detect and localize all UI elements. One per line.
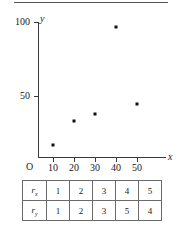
x-tick-label-40: 40: [105, 163, 127, 173]
data-point: [73, 120, 76, 123]
table-cell: 1: [47, 201, 70, 221]
y-axis-line: [38, 22, 39, 158]
x-tick-label-10: 10: [42, 163, 64, 173]
data-point: [52, 144, 55, 147]
data-point: [115, 26, 118, 29]
table-cell: 1: [47, 181, 70, 201]
table-cell: 2: [70, 201, 93, 221]
y-tick-label-100: 100: [2, 17, 30, 27]
table-cell: 3: [92, 181, 115, 201]
data-point: [94, 113, 97, 116]
table-row: rx 1 2 3 4 5: [23, 181, 162, 201]
x-axis-label: x: [168, 152, 172, 162]
table-cell: 5: [138, 181, 161, 201]
y-axis-label: y: [40, 14, 44, 24]
row-header-rank-x: rx: [23, 181, 47, 201]
y-tick-mark-50: [34, 96, 38, 97]
row-header-rank-y: ry: [23, 201, 47, 221]
table-cell: 4: [138, 201, 161, 221]
origin-label: O: [26, 162, 33, 172]
y-tick-mark-100: [34, 22, 38, 23]
x-tick-label-50: 50: [126, 163, 148, 173]
x-tick-label-30: 30: [84, 163, 106, 173]
table-cell: 3: [92, 201, 115, 221]
table-cell: 2: [70, 181, 93, 201]
y-tick-label-50: 50: [2, 91, 30, 101]
table-cell: 5: [115, 201, 138, 221]
row-header-subscript: y: [35, 210, 38, 216]
data-point: [136, 103, 139, 106]
row-header-subscript: x: [35, 190, 38, 196]
table-row: ry 1 2 3 5 4: [23, 201, 162, 221]
scatter-plot-figure: 100 50 10 20 30 40 50 y x O: [0, 8, 182, 173]
table-cell: 4: [115, 181, 138, 201]
x-tick-label-20: 20: [63, 163, 85, 173]
x-axis-line: [38, 157, 166, 158]
top-divider-rule: [14, 2, 168, 3]
rank-table: rx 1 2 3 4 5 ry 1 2 3 5 4: [22, 180, 162, 221]
